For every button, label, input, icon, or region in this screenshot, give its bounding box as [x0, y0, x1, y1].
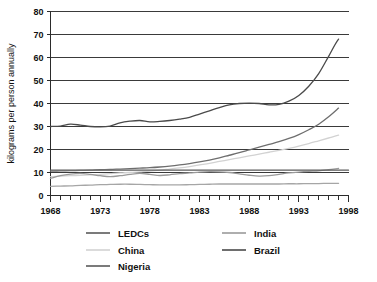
y-axis-label: kilograms per person annually	[6, 43, 16, 164]
x-tick-label: 1973	[90, 206, 110, 216]
series-line-nigerialow	[51, 183, 339, 186]
y-tick-label: 80	[33, 7, 43, 17]
y-tick-label: 30	[33, 122, 43, 132]
y-tick-label: 60	[33, 53, 43, 63]
series-line-brazil	[51, 39, 339, 127]
legend-label: India	[254, 228, 277, 239]
y-tick-label: 0	[38, 191, 43, 201]
x-tick-marks-group	[51, 196, 349, 202]
gridlines-group	[51, 12, 349, 196]
x-tick-label: 1968	[40, 206, 60, 216]
chart-container: 01020304050607080 1968197319781983198819…	[0, 0, 377, 282]
x-tick-label: 1978	[140, 206, 160, 216]
y-tick-label: 70	[33, 30, 43, 40]
legend-label: China	[118, 245, 145, 256]
y-tick-label: 20	[33, 145, 43, 155]
legend-item: LEDCs	[86, 228, 149, 239]
x-tick-label: 1988	[239, 206, 259, 216]
series-line-ledcs	[51, 108, 339, 171]
x-tick-label: 1983	[189, 206, 209, 216]
legend-item: Nigeria	[86, 261, 151, 272]
legend-item: India	[222, 228, 277, 239]
y-tick-label: 10	[33, 168, 43, 178]
legend-label: LEDCs	[118, 228, 149, 239]
y-tick-labels-group: 01020304050607080	[33, 7, 43, 201]
y-tick-label: 50	[33, 76, 43, 86]
line-chart: 01020304050607080 1968197319781983198819…	[0, 0, 377, 282]
data-series-group	[51, 39, 349, 186]
legend-label: Nigeria	[118, 261, 151, 272]
x-tick-label: 1993	[289, 206, 309, 216]
x-tick-label: 1998	[338, 206, 358, 216]
legend-label: Brazil	[254, 245, 280, 256]
legend-item: China	[86, 245, 145, 256]
chart-legend: LEDCsChinaNigeriaIndiaBrazil	[86, 228, 280, 272]
legend-item: Brazil	[222, 245, 280, 256]
y-tick-label: 40	[33, 99, 43, 109]
x-tick-labels-group: 1968197319781983198819931998	[40, 206, 358, 216]
